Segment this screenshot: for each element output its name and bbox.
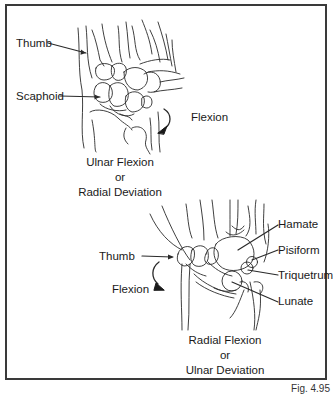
bottom-thumb-leader	[142, 255, 174, 260]
label-thumb-top: Thumb	[16, 37, 52, 50]
figure-number: Fig. 4.95	[291, 383, 330, 394]
label-pisiform: Pisiform	[278, 244, 320, 257]
label-flexion-bottom: Flexion	[112, 283, 149, 296]
caption-line-1: Radial Flexion	[170, 333, 280, 348]
top-flexion-arrow-icon	[158, 109, 170, 134]
label-flexion-top: Flexion	[191, 111, 228, 124]
caption-line-2: or	[65, 170, 175, 185]
caption-line-1: Ulnar Flexion	[65, 155, 175, 170]
label-triquetrum: Triquetrum	[278, 269, 333, 282]
label-hamate: Hamate	[278, 218, 318, 231]
top-wrist-illustration	[78, 20, 184, 154]
label-scaphoid: Scaphoid	[16, 90, 64, 103]
caption-line-3: Radial Deviation	[65, 185, 175, 200]
caption-line-2: or	[170, 348, 280, 363]
label-lunate: Lunate	[278, 295, 313, 308]
label-thumb-bottom: Thumb	[99, 250, 135, 263]
top-panel-caption: Ulnar Flexion or Radial Deviation	[65, 155, 175, 200]
bottom-flexion-arrow-icon	[153, 262, 164, 290]
bottom-panel-caption: Radial Flexion or Ulnar Deviation	[170, 333, 280, 378]
caption-line-3: Ulnar Deviation	[170, 363, 280, 378]
bottom-wrist-illustration	[150, 200, 269, 330]
